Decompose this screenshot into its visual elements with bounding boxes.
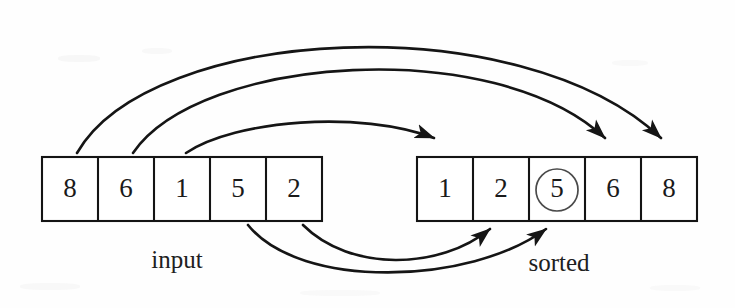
sorted-array-cell-value[interactable]: 5	[550, 173, 564, 203]
sorted-array-caption: sorted	[528, 249, 590, 276]
input-array-group: 86152	[42, 157, 322, 221]
arrow-8-to-slot-5	[77, 47, 661, 153]
arrow-1-to-slot-1	[186, 122, 434, 153]
arrow-2-to-slot-2	[303, 225, 490, 260]
input-array-cell-value[interactable]: 1	[175, 173, 189, 203]
arrow-5-to-slot-3	[248, 225, 546, 272]
sorted-array-cell-value[interactable]: 1	[438, 173, 452, 203]
arrow-6-to-slot-4	[133, 70, 605, 153]
sorted-array-group: 12568	[417, 157, 697, 221]
sorting-figure-page: 86152 12568 input sorted	[0, 0, 735, 308]
sorted-array-cell-value[interactable]: 8	[662, 173, 676, 203]
sorted-array-cell-value[interactable]: 2	[494, 173, 508, 203]
figure-canvas: 86152 12568 input sorted	[0, 0, 735, 308]
input-array-cell-value[interactable]: 6	[119, 173, 133, 203]
input-array-cell-value[interactable]: 8	[63, 173, 77, 203]
sorted-array-cell-value[interactable]: 6	[606, 173, 620, 203]
input-array-cell-value[interactable]: 5	[231, 173, 245, 203]
input-array-cell-value[interactable]: 2	[287, 173, 301, 203]
input-array-caption: input	[151, 246, 202, 273]
